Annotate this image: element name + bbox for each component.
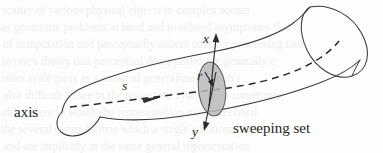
tube-right-end-ellipse: [301, 6, 367, 77]
x-axis-label: x: [203, 31, 209, 47]
tube-right-seam: [352, 60, 360, 76]
figure-container: scatter of various physical objects in c…: [0, 0, 383, 153]
tube-top-outline: [62, 7, 310, 112]
x-axis-arrowhead: [213, 33, 220, 42]
radius-label: r: [197, 68, 202, 84]
y-axis-label: y: [192, 124, 198, 140]
y-axis-arrowhead: [203, 121, 210, 131]
tube-bottom-outline: [100, 60, 360, 120]
tube-left-cap: [57, 112, 100, 136]
arclength-label: s: [122, 78, 127, 94]
sweeping-set-label: sweeping set: [233, 120, 310, 137]
axis-label: axis: [14, 104, 38, 121]
